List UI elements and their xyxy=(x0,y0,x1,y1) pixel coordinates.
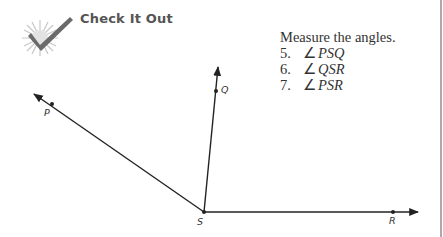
ray-sq xyxy=(204,67,218,212)
label-s: S xyxy=(197,216,203,227)
vertex-s xyxy=(202,210,206,214)
page-edge-rule xyxy=(440,0,442,237)
ray-sp xyxy=(34,94,204,212)
angle-diagram xyxy=(0,0,443,237)
point-r xyxy=(391,210,395,214)
label-r: R xyxy=(389,215,396,226)
label-q: Q xyxy=(221,84,228,95)
point-p xyxy=(50,102,54,106)
label-p: P xyxy=(44,107,50,118)
point-q xyxy=(214,89,218,93)
